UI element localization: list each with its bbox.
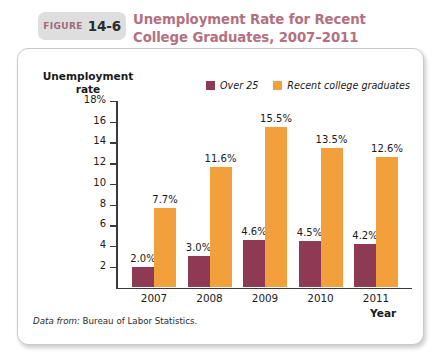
bar-2011-recent-college-graduates[interactable]: 12.6% bbox=[376, 157, 398, 287]
figure-number-tab: FIGURE 14-6 bbox=[38, 12, 126, 40]
bar-group-2008: 3.0%11.6% bbox=[188, 167, 232, 287]
x-axis-label-2008: 2008 bbox=[188, 292, 232, 304]
source-prefix: Data from: bbox=[33, 316, 80, 326]
legend-swatch-over-25 bbox=[206, 81, 215, 90]
legend-item-recent-college-graduates: Recent college graduates bbox=[273, 80, 410, 91]
y-axis-tick-label: 16 bbox=[93, 115, 106, 126]
bar-2007-recent-college-graduates[interactable]: 7.7% bbox=[154, 208, 176, 288]
source-text: Bureau of Labor Statistics. bbox=[83, 316, 198, 326]
bar-2010-recent-college-graduates[interactable]: 13.5% bbox=[321, 148, 343, 288]
y-axis-title: Unemployment rate bbox=[40, 70, 136, 95]
y-axis-tick: 8 bbox=[110, 205, 116, 206]
chart-legend: Over 25 Recent college graduates bbox=[206, 80, 410, 91]
x-axis-label-2010: 2010 bbox=[299, 292, 343, 304]
bar-value-label: 4.2% bbox=[352, 230, 377, 241]
y-axis-tick: 4 bbox=[110, 246, 116, 247]
figure-number: 14-6 bbox=[88, 18, 121, 34]
y-axis-line bbox=[116, 101, 118, 289]
x-axis-label-2007: 2007 bbox=[132, 292, 176, 304]
y-axis-tick: 6 bbox=[110, 225, 116, 226]
bar-group-2009: 4.6%15.5% bbox=[243, 127, 287, 288]
bar-value-label: 11.6% bbox=[205, 153, 237, 164]
bar-2008-recent-college-graduates[interactable]: 11.6% bbox=[210, 167, 232, 287]
legend-label-over-25: Over 25 bbox=[220, 80, 258, 91]
bar-2007-over-25[interactable]: 2.0% bbox=[132, 267, 154, 288]
bar-group-2011: 4.2%12.6% bbox=[354, 157, 398, 287]
bar-value-label: 4.5% bbox=[297, 227, 322, 238]
bar-2009-recent-college-graduates[interactable]: 15.5% bbox=[265, 127, 287, 288]
y-axis-tick: 2 bbox=[110, 267, 116, 268]
x-axis-title: Year bbox=[370, 307, 396, 319]
y-axis-tick-label: 18% bbox=[84, 94, 106, 105]
plot-area: 18%161412108642 2.0%7.7%3.0%11.6%4.6%15.… bbox=[116, 101, 412, 289]
legend-item-over-25: Over 25 bbox=[206, 80, 258, 91]
bar-2010-over-25[interactable]: 4.5% bbox=[299, 241, 321, 288]
figure-title: Unemployment Rate for Recent College Gra… bbox=[133, 11, 423, 47]
y-axis-tick: 16 bbox=[110, 122, 116, 123]
y-axis-tick-label: 2 bbox=[100, 260, 106, 271]
legend-label-recent-college-graduates: Recent college graduates bbox=[287, 80, 410, 91]
figure-label: FIGURE bbox=[43, 21, 83, 31]
bar-value-label: 2.0% bbox=[130, 253, 155, 264]
bar-value-label: 7.7% bbox=[152, 194, 177, 205]
source-note: Data from: Bureau of Labor Statistics. bbox=[33, 316, 197, 326]
y-axis-tick-label: 6 bbox=[100, 218, 106, 229]
y-axis-tick-label: 10 bbox=[93, 177, 106, 188]
bar-2011-over-25[interactable]: 4.2% bbox=[354, 244, 376, 287]
y-axis-tick: 18% bbox=[110, 101, 116, 102]
y-axis-tick-label: 12 bbox=[93, 156, 106, 167]
bar-2009-over-25[interactable]: 4.6% bbox=[243, 240, 265, 288]
x-axis-label-2009: 2009 bbox=[243, 292, 287, 304]
y-axis-tick: 14 bbox=[110, 142, 116, 143]
y-axis-tick: 12 bbox=[110, 163, 116, 164]
bar-2008-over-25[interactable]: 3.0% bbox=[188, 256, 210, 287]
y-axis-tick: 10 bbox=[110, 184, 116, 185]
x-axis-label-2011: 2011 bbox=[354, 292, 398, 304]
bar-value-label: 12.6% bbox=[371, 143, 403, 154]
bar-value-label: 13.5% bbox=[316, 134, 348, 145]
bar-value-label: 3.0% bbox=[186, 242, 211, 253]
bar-value-label: 15.5% bbox=[260, 113, 292, 124]
bar-group-2007: 2.0%7.7% bbox=[132, 208, 176, 288]
chart-card: Unemployment rate Year Over 25 Recent co… bbox=[17, 48, 424, 345]
legend-swatch-recent-college-graduates bbox=[273, 81, 282, 90]
y-axis-tick-label: 14 bbox=[93, 135, 106, 146]
x-axis-line bbox=[116, 288, 412, 290]
bar-group-2010: 4.5%13.5% bbox=[299, 148, 343, 288]
bar-value-label: 4.6% bbox=[241, 226, 266, 237]
y-axis-tick-label: 4 bbox=[100, 239, 106, 250]
y-axis-tick-label: 8 bbox=[100, 198, 106, 209]
